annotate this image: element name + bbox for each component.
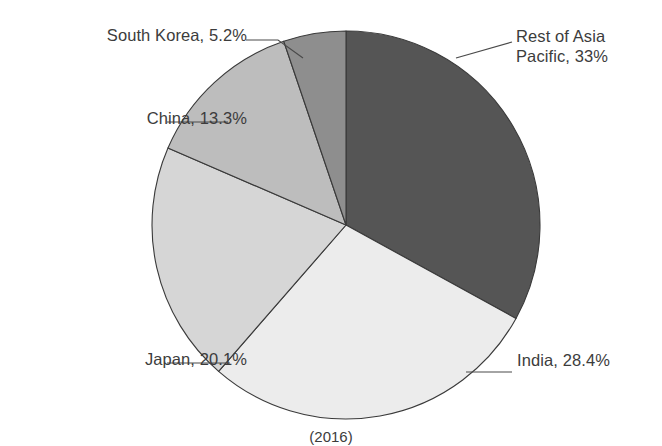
pie-label-rest-of-asia-pacific: Rest of Asia Pacific, 33%: [516, 26, 656, 66]
pie-label-india: India, 28.4%: [517, 350, 657, 370]
pie-chart-figure: South Korea, 5.2% China, 13.3% Japan, 20…: [0, 0, 662, 446]
pie-label-japan: Japan, 20.1%: [18, 349, 247, 369]
pie-chart-graphic: [0, 0, 662, 446]
pie-label-china: China, 13.3%: [18, 108, 247, 128]
figure-caption: (2016): [0, 428, 662, 446]
leader-line-rest-of-asia-pacific: [456, 42, 512, 58]
pie-label-south-korea: South Korea, 5.2%: [32, 25, 247, 45]
